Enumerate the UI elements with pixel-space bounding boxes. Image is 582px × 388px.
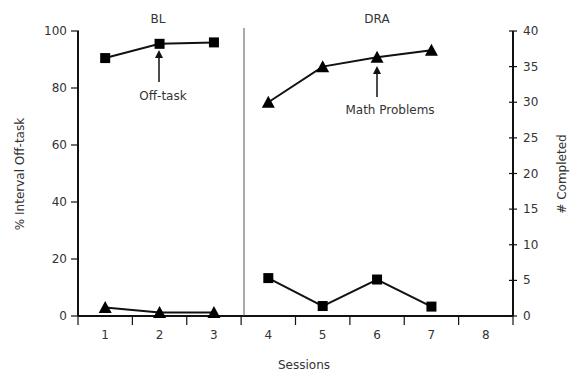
x-ticks: 12345678 xyxy=(78,316,513,342)
x-tick-label: 5 xyxy=(319,328,327,342)
x-tick-label: 1 xyxy=(101,328,109,342)
square-marker xyxy=(209,37,219,47)
x-tick-label: 4 xyxy=(264,328,272,342)
triangle-marker xyxy=(262,96,275,108)
phase-label-bl: BL xyxy=(151,12,166,26)
annotation-off-task-label: Off-task xyxy=(139,89,186,103)
left-y-ticks: 020406080100 xyxy=(44,24,79,323)
y-tick-label: 40 xyxy=(52,195,67,209)
x-tick-label: 7 xyxy=(428,328,436,342)
y2-tick-label: 35 xyxy=(523,60,538,74)
series-layer xyxy=(99,37,438,318)
x-tick-label: 6 xyxy=(373,328,381,342)
x-axis-title: Sessions xyxy=(278,358,330,372)
y2-axis-title: # Completed xyxy=(555,134,569,213)
y-tick-label: 20 xyxy=(52,252,67,266)
annotation-off-task: Off-task xyxy=(139,50,186,103)
y2-tick-label: 0 xyxy=(523,309,531,323)
y2-tick-label: 40 xyxy=(523,24,538,38)
y2-tick-label: 15 xyxy=(523,202,538,216)
square-marker xyxy=(426,302,436,312)
line-chart: 020406080100 0510152025303540 12345678 B… xyxy=(0,0,582,388)
x-tick-label: 2 xyxy=(156,328,164,342)
y2-tick-label: 30 xyxy=(523,95,538,109)
square-marker xyxy=(263,273,273,283)
y-tick-label: 60 xyxy=(52,138,67,152)
y-tick-label: 0 xyxy=(59,309,67,323)
x-tick-label: 8 xyxy=(482,328,490,342)
y2-tick-label: 10 xyxy=(523,238,538,252)
annotation-math-problems: Math Problems xyxy=(345,66,434,117)
square-marker xyxy=(318,301,328,311)
y2-tick-label: 20 xyxy=(523,167,538,181)
y-tick-label: 80 xyxy=(52,81,67,95)
series-off-task xyxy=(100,37,436,311)
square-marker xyxy=(155,39,165,49)
square-marker xyxy=(372,275,382,285)
y-axis-title: % Interval Off-task xyxy=(13,118,27,230)
phase-label-dra: DRA xyxy=(364,12,390,26)
square-marker xyxy=(100,53,110,63)
triangle-marker xyxy=(425,44,438,56)
y2-tick-label: 25 xyxy=(523,131,538,145)
y-tick-label: 100 xyxy=(44,24,67,38)
annotation-math-problems-label: Math Problems xyxy=(345,103,434,117)
x-tick-label: 3 xyxy=(210,328,218,342)
y2-tick-label: 5 xyxy=(523,273,531,287)
